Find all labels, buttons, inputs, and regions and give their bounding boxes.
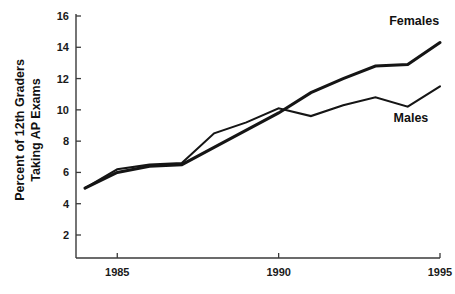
x-axis-ticks: 198519901995 [105,253,452,278]
series-lines [85,43,440,188]
x-tick-label: 1990 [266,266,290,278]
y-axis-title-line2: Taking AP Exams [29,78,43,181]
series-line-males [85,86,440,188]
y-axis-title: Percent of 12th Graders Taking AP Exams [13,59,43,201]
y-tick-label: 14 [57,41,70,53]
y-tick-label: 12 [57,73,69,85]
y-axis-title-line1: Percent of 12th Graders [13,59,27,201]
line-chart: Percent of 12th Graders Taking AP Exams … [0,0,455,294]
series-label-males: Males [394,111,429,125]
y-tick-label: 6 [63,166,69,178]
series-annotations: FemalesMales [389,14,439,125]
y-axis-ticks: 246810121416 [57,10,81,241]
y-tick-label: 8 [63,135,69,147]
y-tick-label: 16 [57,10,69,22]
x-tick-label: 1995 [428,266,452,278]
x-tick-label: 1985 [105,266,129,278]
series-label-females: Females [389,14,439,28]
y-tick-label: 4 [63,198,70,210]
chart-container: Percent of 12th Graders Taking AP Exams … [0,0,455,294]
y-tick-label: 2 [63,229,69,241]
y-tick-label: 10 [57,104,69,116]
